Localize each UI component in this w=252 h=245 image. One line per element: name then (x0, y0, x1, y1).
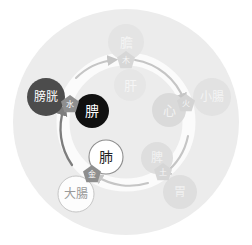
liver-label: 肝 (124, 78, 137, 93)
wood-label: 木 (122, 55, 130, 65)
large-intestine-label: 大腸 (64, 187, 88, 201)
small-intestine-circle[interactable]: 小腸 (193, 78, 231, 116)
stomach-label: 胃 (174, 185, 186, 199)
small-intestine-label: 小腸 (200, 90, 224, 104)
heart-label: 心 (163, 103, 176, 118)
kidney-label: 腗 (85, 103, 99, 119)
liver-circle[interactable]: 肝 (114, 69, 146, 101)
five-elements-diagram: 膽 小腸 胃 大腸 膀胱 (0, 0, 252, 245)
bladder-circle[interactable]: 膀胱 (27, 78, 65, 116)
metal-label: 金 (88, 169, 96, 179)
lung-label: 肺 (99, 149, 113, 165)
gallbladder-label: 膽 (120, 35, 133, 50)
spleen-label: 脾 (151, 150, 163, 165)
bladder-label: 膀胱 (34, 89, 58, 104)
earth-label: 土 (159, 167, 167, 177)
kidney-circle[interactable]: 腗 (75, 94, 109, 128)
water-label: 水 (66, 99, 74, 109)
fire-label: 火 (182, 99, 190, 108)
